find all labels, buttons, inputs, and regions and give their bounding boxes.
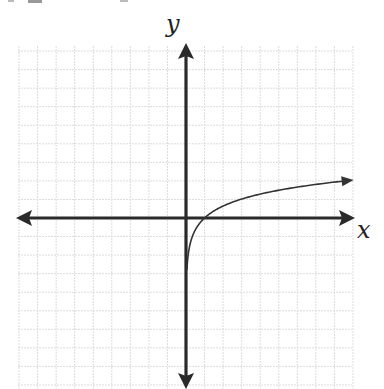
cropped-text-fragments — [8, 0, 128, 3]
y-axis-label: y — [166, 12, 180, 36]
log-curve — [187, 181, 349, 270]
x-axis-label: x — [357, 218, 371, 242]
chart-canvas — [0, 0, 384, 389]
axes — [16, 43, 355, 389]
